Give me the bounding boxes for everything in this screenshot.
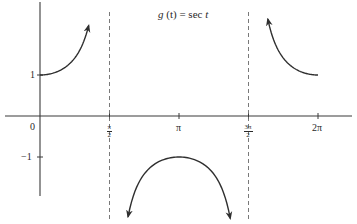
x-tick-label: π (176, 123, 181, 133)
sec-curve-branch-3 (268, 19, 318, 75)
secant-graph: g (t) = sec t 0π2π3π22π 1−1 (0, 0, 357, 224)
plot-area (0, 0, 357, 224)
title-argument: (t) (166, 8, 176, 20)
title-variable: t (205, 8, 208, 20)
x-tick-label: 3π2 (244, 121, 253, 140)
y-tick-label: −1 (21, 152, 32, 162)
sec-curve-branch-1 (40, 26, 89, 75)
y-tick-label: 1 (30, 70, 35, 80)
sec-curve-branch-2 (128, 157, 230, 218)
title-function-name: g (158, 8, 164, 20)
x-tick-label: π2 (107, 121, 113, 140)
title-equals: = sec (177, 8, 206, 20)
axes (5, 2, 352, 196)
chart-title: g (t) = sec t (158, 9, 208, 20)
x-tick-label: 0 (30, 122, 35, 132)
x-tick-label: 2π (312, 123, 322, 133)
